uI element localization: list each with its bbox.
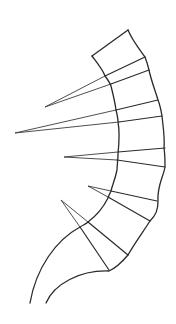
divider-line-8 — [108, 197, 150, 221]
divider-line-3 — [116, 100, 158, 110]
vertebra-divider-lines — [80, 57, 165, 270]
spike-3 — [64, 152, 118, 160]
spike-4 — [88, 186, 111, 197]
divider-line-2 — [111, 70, 149, 84]
divider-line-9 — [88, 222, 128, 255]
converging-lines — [15, 76, 119, 227]
divider-line-6 — [117, 160, 165, 167]
divider-line-4 — [119, 116, 162, 122]
divider-line-7 — [111, 191, 157, 201]
spine-diagram — [0, 0, 176, 324]
divider-line-10 — [80, 227, 109, 270]
spike-1 — [45, 76, 111, 107]
divider-line-5 — [118, 148, 165, 152]
top-edge — [92, 30, 128, 56]
spike-2 — [15, 110, 119, 133]
spike-5 — [61, 200, 88, 227]
